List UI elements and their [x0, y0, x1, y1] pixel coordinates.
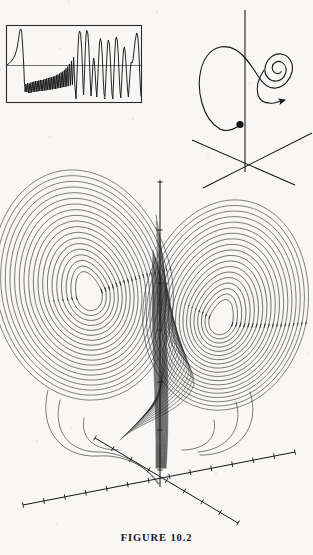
figure-caption: FIGURE 10.2	[0, 532, 313, 543]
scan-speckle	[36, 440, 38, 442]
axis-tick	[23, 502, 24, 507]
attractor-outer-sweep	[200, 392, 253, 455]
attractor-orbit-left	[0, 170, 173, 400]
axis-tick	[295, 449, 296, 454]
scan-speckle	[300, 115, 301, 116]
scan-speckle	[187, 470, 189, 472]
scan-speckle	[59, 48, 61, 50]
attractor-orbit-left	[15, 198, 154, 375]
axis-tick	[190, 470, 191, 476]
axis-tick	[147, 468, 150, 473]
axis-tick	[64, 494, 65, 500]
scan-speckle	[251, 90, 252, 91]
axis-tick	[111, 446, 114, 451]
scan-speckle	[88, 253, 90, 255]
lorenz-figure-svg	[0, 0, 313, 555]
axis-tick	[94, 436, 97, 441]
scan-speckle	[253, 207, 255, 209]
scan-speckle	[78, 309, 79, 310]
axis-tick	[183, 489, 186, 494]
axis-tick	[85, 490, 86, 496]
scan-speckle	[39, 414, 40, 415]
scan-speckle	[156, 11, 158, 13]
scan-speckle	[290, 288, 292, 290]
attractor-orbit-left	[19, 204, 150, 370]
scan-speckle	[88, 363, 90, 365]
axis-tick	[219, 510, 222, 515]
scan-speckle	[249, 82, 251, 84]
axis-tick	[148, 478, 149, 484]
scan-speckle	[122, 321, 123, 322]
attractor-outer-sweep	[182, 420, 215, 450]
scan-speckle	[13, 40, 14, 41]
scan-speckle	[207, 156, 209, 158]
axis-tick	[165, 478, 168, 483]
scan-speckle	[252, 271, 254, 273]
attractor-outer-sweep	[46, 390, 159, 484]
axis-tick	[274, 453, 275, 459]
scan-speckle	[78, 49, 80, 51]
axis-tick	[127, 482, 128, 488]
scan-speckle	[56, 523, 58, 525]
axis-tick	[43, 498, 44, 504]
attractor-orbit-right	[161, 228, 288, 389]
scan-speckle	[75, 474, 76, 475]
timeseries-trace	[7, 29, 141, 99]
spiral-axis-right-oblique	[203, 133, 312, 188]
attractor-orbit-group	[0, 170, 309, 484]
attractor-orbit-left	[43, 232, 130, 345]
scan-speckle	[132, 118, 134, 120]
scan-speckle	[111, 368, 112, 369]
scan-speckle	[81, 228, 83, 230]
scan-speckle	[258, 170, 260, 172]
attractor-orbit-left	[76, 272, 103, 311]
spiral-start-dot	[236, 121, 243, 128]
scan-speckle	[49, 136, 51, 138]
axis-tick	[106, 486, 107, 492]
scan-speckle	[81, 224, 82, 225]
scan-speckle	[267, 90, 268, 91]
figure-page: FIGURE 10.2	[0, 0, 313, 555]
timeseries-inset-panel	[7, 26, 142, 103]
axis-tick	[237, 521, 240, 526]
scan-speckle	[103, 96, 105, 98]
spiral-axis-left-oblique	[192, 140, 295, 185]
scan-speckle	[288, 226, 289, 227]
attractor-outer-sweep	[83, 418, 118, 450]
axis-tick	[169, 474, 170, 480]
scan-speckle	[101, 139, 102, 140]
scan-speckle	[213, 429, 215, 431]
attractor-orbit-right	[209, 300, 234, 335]
scan-speckle	[99, 324, 101, 326]
lorenz-attractor-panel	[0, 170, 309, 525]
attractor-orbit-left	[0, 176, 169, 395]
spiral-trajectory-curve	[199, 47, 292, 131]
axis-tick	[201, 499, 204, 504]
axis-tick	[211, 466, 212, 472]
attractor-outer-sweep	[58, 400, 158, 484]
spiral-trajectory-panel	[192, 10, 312, 188]
axis-tick	[232, 462, 233, 468]
scan-speckle	[117, 207, 118, 208]
axis-tick	[253, 457, 254, 463]
scan-speckle	[215, 472, 217, 474]
scan-speckle	[67, 210, 68, 211]
